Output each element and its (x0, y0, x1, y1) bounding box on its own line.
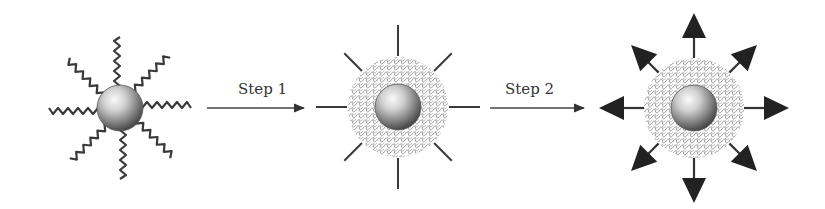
stage-1-particle (49, 37, 191, 179)
step-1-label: Step 1 (238, 80, 287, 98)
nanoparticle-core (671, 85, 717, 131)
nanoparticle-core (375, 84, 421, 130)
stage-3-particle (599, 13, 789, 203)
step-2-label: Step 2 (505, 80, 554, 98)
diagram-canvas (0, 0, 825, 209)
nanoparticle-core (97, 85, 143, 131)
stage-2-particle (316, 25, 480, 189)
